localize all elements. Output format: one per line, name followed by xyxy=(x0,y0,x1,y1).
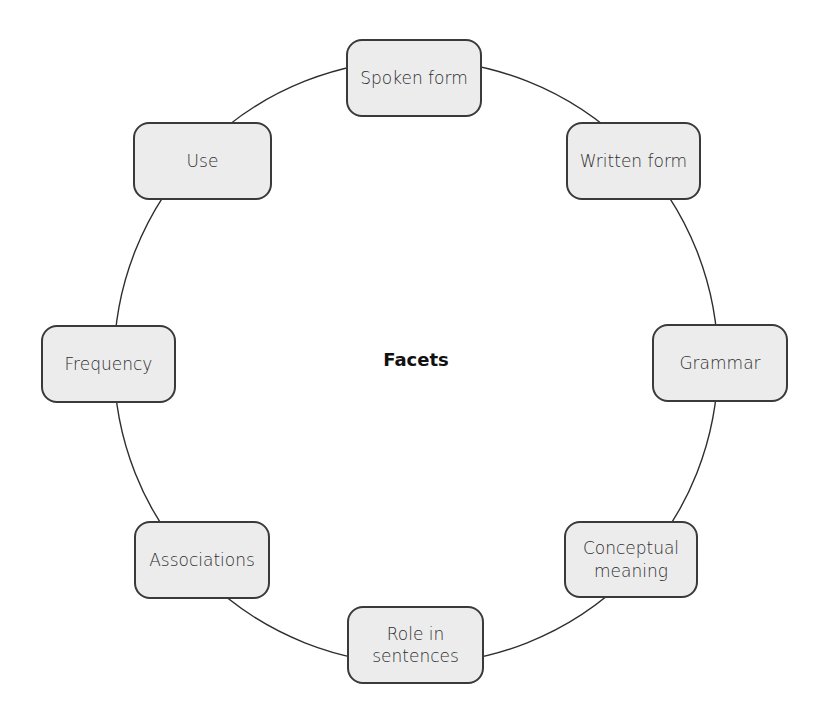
node-label: Frequency xyxy=(65,353,153,375)
node-written-form: Written form xyxy=(566,122,701,200)
node-label: Associations xyxy=(149,549,255,571)
node-label: Grammar xyxy=(679,352,760,374)
node-use: Use xyxy=(133,122,272,200)
node-label: Use xyxy=(187,150,219,172)
facets-diagram: Facets Spoken form Written form Grammar … xyxy=(0,0,824,716)
node-grammar: Grammar xyxy=(652,324,788,402)
node-label: Conceptual meaning xyxy=(583,537,679,581)
node-label: Role in sentences xyxy=(372,623,459,667)
node-label: Written form xyxy=(580,150,687,172)
node-frequency: Frequency xyxy=(41,325,176,403)
center-label: Facets xyxy=(366,349,466,375)
node-label: Spoken form xyxy=(360,67,468,89)
node-conceptual-meaning: Conceptual meaning xyxy=(564,521,698,598)
node-associations: Associations xyxy=(134,521,270,599)
node-role-in-sentences: Role in sentences xyxy=(347,606,484,684)
node-spoken-form: Spoken form xyxy=(346,39,482,117)
